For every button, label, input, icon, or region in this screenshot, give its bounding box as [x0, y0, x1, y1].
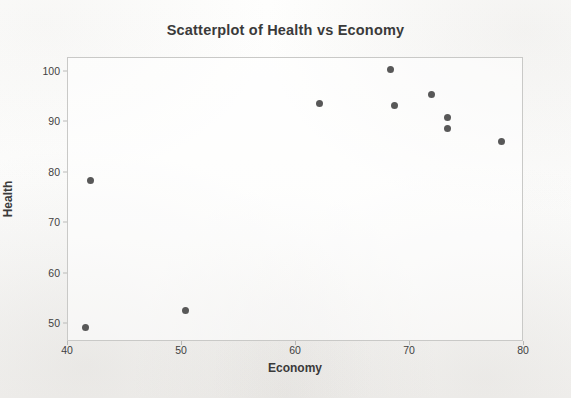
data-point — [498, 138, 505, 145]
y-tick-label: 50 — [30, 317, 60, 329]
data-point — [82, 324, 89, 331]
y-tick-mark — [63, 121, 67, 122]
y-tick-mark — [63, 272, 67, 273]
y-tick-mark — [63, 323, 67, 324]
data-point — [87, 177, 94, 184]
y-tick-mark — [63, 71, 67, 72]
x-tick-mark — [295, 341, 296, 345]
chart-title: Scatterplot of Health vs Economy — [0, 22, 571, 38]
y-tick-mark — [63, 171, 67, 172]
data-point — [387, 66, 394, 73]
data-point — [444, 114, 451, 121]
data-points-layer — [68, 58, 522, 340]
y-tick-label: 60 — [30, 267, 60, 279]
data-point — [444, 125, 451, 132]
y-tick-label: 90 — [30, 115, 60, 127]
y-tick-label: 100 — [30, 65, 60, 77]
data-point — [428, 91, 435, 98]
data-point — [391, 102, 398, 109]
x-tick-mark — [523, 341, 524, 345]
x-tick-mark — [67, 341, 68, 345]
x-tick-label: 40 — [61, 344, 73, 356]
data-point — [182, 307, 189, 314]
x-tick-mark — [181, 341, 182, 345]
scatterplot-figure: Scatterplot of Health vs Economy 5060708… — [0, 0, 571, 398]
x-tick-label: 60 — [289, 344, 301, 356]
x-tick-label: 80 — [517, 344, 529, 356]
x-axis-label: Economy — [268, 361, 322, 375]
data-point — [316, 100, 323, 107]
y-tick-label: 70 — [30, 216, 60, 228]
x-tick-label: 50 — [175, 344, 187, 356]
y-tick-mark — [63, 222, 67, 223]
x-tick-label: 70 — [403, 344, 415, 356]
x-tick-mark — [409, 341, 410, 345]
y-tick-label: 80 — [30, 166, 60, 178]
plot-area — [67, 57, 523, 341]
y-axis-label: Health — [1, 181, 15, 218]
